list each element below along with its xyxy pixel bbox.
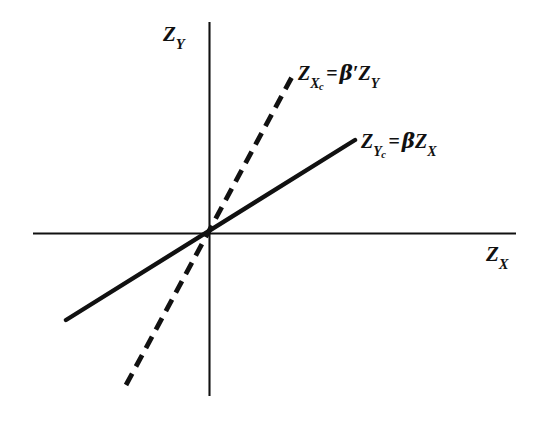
solid-line-equation-label: ZYc=βZX [361,131,437,156]
y-axis-label: ZY [163,24,185,49]
y-axis-label-subscript: Y [176,36,185,52]
dashed-label-subsubscript: c [319,81,324,92]
dashed-label-base: Z [298,62,310,84]
x-axis-label-base: Z [486,242,499,266]
y-axis-label-base: Z [163,22,176,46]
dashed-label-beta: β [340,61,353,85]
figure-canvas: ZY ZX ZXc=β′ZY ZYc=βZX [0,0,547,422]
dashed-label-rhs-subscript: Y [371,76,380,91]
solid-label-subsubscript: c [381,149,386,160]
solid-label-rhs-subscript: X [427,144,436,159]
x-axis-label-subscript: X [499,256,509,272]
dashed-label-equals: = [324,62,339,84]
solid-label-rhs-base: Z [415,130,427,152]
dashed-label-rhs-base: Z [359,62,371,84]
solid-label-equals: = [386,130,401,152]
regression-lines-diagram [0,0,547,422]
solid-label-base: Z [361,130,373,152]
x-axis-label: ZX [486,244,509,269]
solid-label-beta: β [402,129,415,153]
dashed-line-equation-label: ZXc=β′ZY [298,63,379,88]
